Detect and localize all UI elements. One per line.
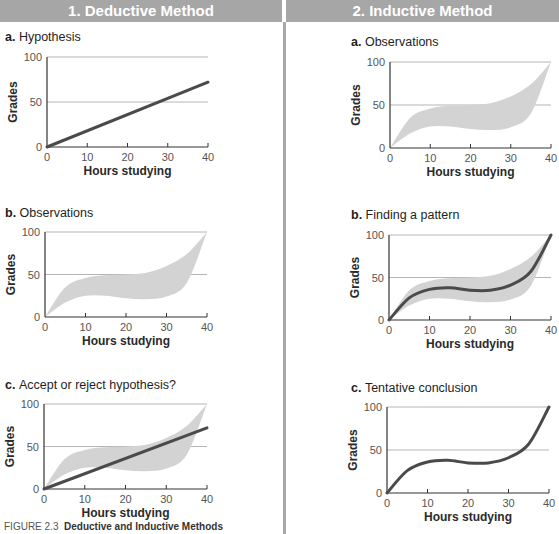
chart-inductive-tentative-conclusion: 010203040050100Hours studyingGrades (0, 0, 559, 534)
y-tick-label: 0 (376, 487, 382, 499)
x-tick-label: 0 (384, 497, 390, 509)
x-tick-label: 30 (502, 497, 514, 509)
y-tick-label: 100 (364, 401, 382, 413)
x-axis-title: Hours studying (424, 510, 512, 524)
figure-caption: FIGURE 2.3 Deductive and Inductive Metho… (4, 521, 223, 532)
y-tick-label: 50 (370, 444, 382, 456)
x-tick-label: 20 (462, 497, 474, 509)
y-axis-title: Grades (346, 429, 360, 471)
x-tick-label: 10 (421, 497, 433, 509)
x-tick-label: 40 (543, 497, 555, 509)
